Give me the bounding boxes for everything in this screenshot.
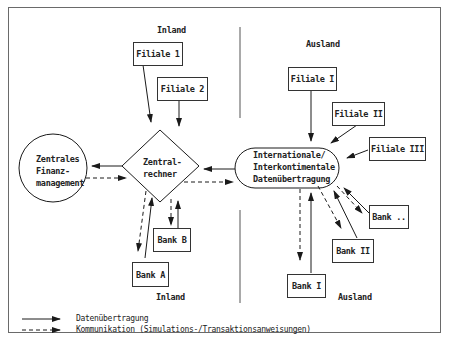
region-label-ausland-bottom: Ausland xyxy=(338,293,372,302)
node-filiale-III: Filiale III xyxy=(369,137,426,161)
node-filiale-II: Filiale II xyxy=(332,102,385,126)
node-filiale-1: Filiale 1 xyxy=(133,42,183,66)
legend-dashed-label: Kommunikation (Simulations-/Transaktions… xyxy=(76,325,311,334)
node-bank-II: Bank II xyxy=(332,239,374,263)
node-text-line: Datenübertragung xyxy=(253,173,335,185)
region-label-inland-bottom: Inland xyxy=(156,293,185,302)
node-text-line: rechner xyxy=(143,168,182,180)
node-bank-more: Bank .. xyxy=(369,205,409,229)
node-text-line: Finanz- xyxy=(36,165,84,177)
node-international-datenuebertragung: Internationale/ Interkontimentale Datenü… xyxy=(253,149,335,185)
node-zentralrechner: Zentral- rechner xyxy=(143,156,182,180)
node-text-line: Zentrales xyxy=(36,153,84,165)
node-text-line: Zentral- xyxy=(143,156,182,168)
legend-solid-label: Datenübertragung xyxy=(76,314,148,323)
node-bank-B: Bank B xyxy=(153,228,191,252)
node-text-line: Interkontimentale xyxy=(253,161,335,173)
node-bank-A: Bank A xyxy=(132,262,169,287)
node-text-line: management xyxy=(36,177,84,189)
node-filiale-I: Filiale I xyxy=(288,67,337,91)
node-filiale-2: Filiale 2 xyxy=(157,77,208,101)
region-label-ausland-top: Ausland xyxy=(306,40,340,49)
region-label-inland-top: Inland xyxy=(157,26,186,35)
node-text-line: Internationale/ xyxy=(253,149,335,161)
node-zentrales-finanzmanagement: Zentrales Finanz- management xyxy=(36,153,84,189)
node-bank-I: Bank I xyxy=(287,274,326,298)
